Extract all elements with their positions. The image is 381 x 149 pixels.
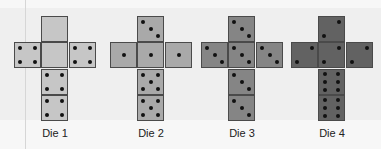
pip	[177, 53, 181, 57]
face-center	[137, 42, 164, 68]
pip	[60, 87, 64, 91]
face-left	[14, 42, 41, 68]
pip	[232, 46, 236, 50]
pip	[247, 87, 251, 91]
face-left	[110, 42, 137, 68]
pip	[337, 20, 341, 24]
pip	[247, 34, 251, 38]
face-right	[256, 42, 283, 68]
pip	[336, 80, 340, 84]
pip	[310, 46, 314, 50]
pip	[141, 113, 145, 117]
die-2-label: Die 2	[109, 127, 193, 139]
pip	[45, 87, 49, 91]
face-below1	[137, 69, 164, 95]
pip	[45, 73, 49, 77]
pip	[323, 98, 327, 102]
pip	[156, 34, 160, 38]
pip	[18, 60, 22, 64]
die-1-label: Die 1	[13, 127, 97, 139]
pip	[323, 114, 327, 118]
face-below2	[228, 95, 255, 121]
face-right	[346, 42, 373, 68]
face-left	[291, 42, 318, 68]
pip	[240, 80, 244, 84]
pip	[337, 46, 341, 50]
pip	[336, 114, 340, 118]
face-left	[201, 42, 228, 68]
die-4-net	[291, 16, 375, 122]
pip	[149, 106, 153, 110]
pip	[322, 34, 326, 38]
face-right	[165, 42, 192, 68]
pip	[205, 46, 209, 50]
pip	[350, 60, 354, 64]
pip	[88, 46, 92, 50]
die-4-label: Die 4	[290, 127, 374, 139]
face-below2	[41, 95, 68, 121]
pip	[323, 80, 327, 84]
pip	[33, 60, 37, 64]
die-3-label: Die 3	[200, 127, 284, 139]
face-center	[318, 42, 345, 68]
pip	[156, 73, 160, 77]
die-3-net	[201, 16, 285, 122]
pip	[156, 99, 160, 103]
pip	[240, 53, 244, 57]
pip	[73, 60, 77, 64]
face-top	[41, 16, 68, 42]
pip	[122, 53, 126, 57]
pip	[220, 60, 224, 64]
pip	[149, 80, 153, 84]
pip	[232, 73, 236, 77]
pip	[141, 20, 145, 24]
pip	[60, 113, 64, 117]
pip	[260, 46, 264, 50]
pip	[247, 60, 251, 64]
pip	[240, 27, 244, 31]
pip	[88, 60, 92, 64]
pip	[295, 60, 299, 64]
pip	[141, 99, 145, 103]
pip	[73, 46, 77, 50]
die-1-net	[14, 16, 98, 122]
face-center	[228, 42, 255, 68]
pip	[322, 60, 326, 64]
pip	[247, 113, 251, 117]
pip	[232, 20, 236, 24]
pip	[18, 46, 22, 50]
pip	[149, 27, 153, 31]
pip	[336, 106, 340, 110]
pip	[141, 87, 145, 91]
pip	[33, 46, 37, 50]
pip	[268, 53, 272, 57]
pip	[336, 98, 340, 102]
pip	[275, 60, 279, 64]
pip	[156, 113, 160, 117]
pip	[45, 113, 49, 117]
pip	[149, 53, 153, 57]
face-top	[318, 16, 345, 42]
pip	[336, 88, 340, 92]
pip	[45, 99, 49, 103]
pip	[60, 73, 64, 77]
face-below1	[318, 69, 345, 95]
pip	[232, 99, 236, 103]
die-2-net	[110, 16, 194, 122]
face-right	[69, 42, 96, 68]
pip	[156, 87, 160, 91]
pip	[336, 72, 340, 76]
face-below1	[41, 69, 68, 95]
pip	[141, 73, 145, 77]
face-below1	[228, 69, 255, 95]
pip	[323, 72, 327, 76]
pip	[213, 53, 217, 57]
face-center	[41, 42, 68, 68]
pip	[323, 88, 327, 92]
face-top	[137, 16, 164, 42]
pip	[60, 99, 64, 103]
face-top	[228, 16, 255, 42]
face-below2	[137, 95, 164, 121]
pip	[240, 106, 244, 110]
pip	[323, 106, 327, 110]
